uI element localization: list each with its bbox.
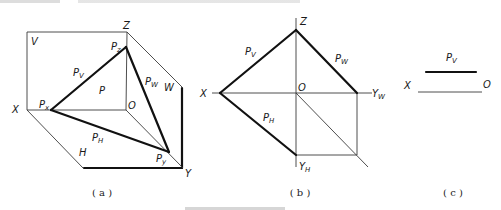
cropped-figure-caption xyxy=(185,207,285,210)
trace-ph xyxy=(51,110,169,152)
z-axis xyxy=(126,32,127,110)
label-z: Z xyxy=(122,20,131,31)
label-x: X xyxy=(403,80,412,91)
w-plane-top-edge xyxy=(127,32,182,87)
label-x: X xyxy=(199,88,208,99)
label-y: Y xyxy=(185,168,192,179)
label-pv: PV xyxy=(73,67,85,80)
panel-b: Z PV PW X O YW PH YH xyxy=(199,16,386,174)
trace-ph xyxy=(220,93,296,155)
label-pv: PV xyxy=(446,52,458,65)
label-p: P xyxy=(99,85,106,96)
label-pw: PW xyxy=(335,53,349,66)
panel-c: PV X O xyxy=(403,52,491,92)
panel-a: Z V Pz PV P PW W X Px O PH H Py Y xyxy=(11,20,192,179)
label-w: W xyxy=(164,82,175,93)
label-pv: PV xyxy=(245,46,257,59)
label-ph: PH xyxy=(92,132,104,145)
label-h: H xyxy=(79,147,87,158)
label-py: Py xyxy=(156,153,167,166)
caption-a: ( a ) xyxy=(92,187,112,198)
caption-c: ( c ) xyxy=(443,187,463,198)
projection-figure: Z V Pz PV P PW W X Px O PH H Py Y Z PV P… xyxy=(0,0,501,210)
label-pw: PW xyxy=(145,76,159,89)
label-ph: PH xyxy=(263,112,275,125)
label-o: O xyxy=(298,82,306,93)
trace-pv xyxy=(220,30,296,93)
label-yh: YH xyxy=(299,161,311,174)
label-pz: Pz xyxy=(111,41,121,54)
label-o: O xyxy=(483,79,491,90)
label-v: V xyxy=(31,36,39,47)
label-o: O xyxy=(128,100,136,111)
label-yw: YW xyxy=(372,88,386,101)
label-z: Z xyxy=(299,16,308,27)
label-x: X xyxy=(11,104,20,115)
trace-pv xyxy=(51,47,126,110)
caption-b: ( b ) xyxy=(290,187,311,198)
